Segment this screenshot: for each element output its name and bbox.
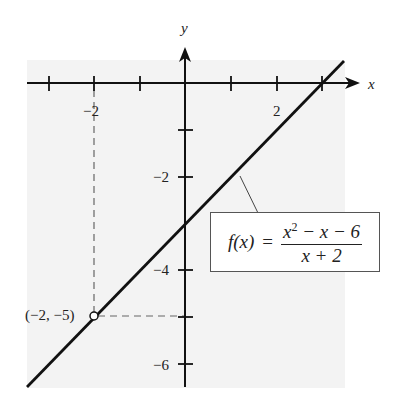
hole-point-marker — [90, 312, 98, 320]
x-tick-label-2: 2 — [273, 103, 281, 119]
hole-point-label: (−2, −5) — [25, 307, 74, 324]
y-tick-label-neg2: −2 — [153, 169, 169, 185]
equation-box: f(x) = x2 − x − 6 x + 2 — [210, 212, 380, 272]
x-axis-label: x — [367, 76, 375, 92]
equation-denominator: x + 2 — [301, 245, 341, 267]
equation-numerator: x2 − x − 6 — [281, 217, 362, 244]
equation-fraction: x2 − x − 6 x + 2 — [281, 217, 362, 266]
numerator-rest: − x − 6 — [297, 222, 360, 243]
x-tick-label-neg2: −2 — [83, 103, 99, 119]
chart-canvas: y x −2 2 −2 −4 −6 (−2, −5) — [0, 0, 406, 405]
y-axis-label: y — [179, 20, 188, 36]
y-tick-label-neg4: −4 — [153, 262, 169, 278]
equation-equals: = — [262, 231, 273, 253]
y-tick-label-neg6: −6 — [153, 357, 169, 373]
equation-lhs: f(x) — [228, 231, 254, 253]
